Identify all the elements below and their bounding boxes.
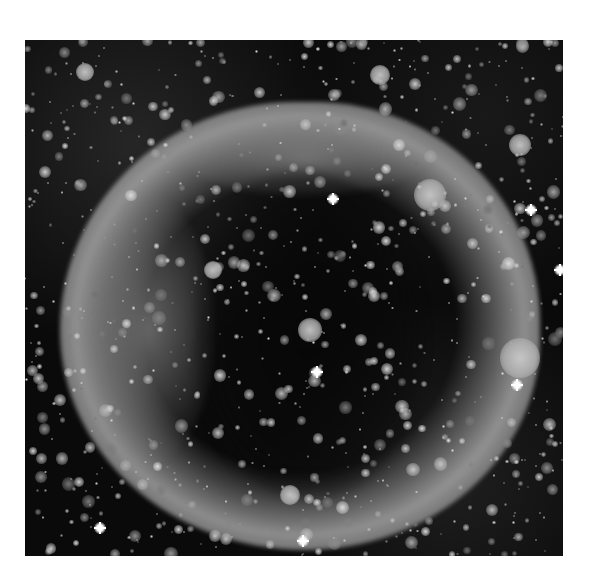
star	[194, 282, 196, 284]
star	[303, 393, 305, 395]
star	[266, 540, 274, 548]
star	[526, 179, 530, 183]
star	[331, 144, 333, 146]
star	[293, 282, 296, 285]
star	[307, 455, 310, 458]
star	[485, 144, 487, 146]
star	[346, 492, 348, 494]
star	[39, 166, 51, 178]
star	[267, 418, 275, 426]
star	[501, 551, 508, 556]
star	[150, 454, 152, 456]
star	[421, 381, 427, 387]
star	[25, 378, 28, 381]
star	[395, 535, 398, 538]
star	[386, 429, 395, 438]
star	[170, 236, 172, 238]
star	[66, 109, 68, 111]
star	[228, 244, 234, 250]
star	[253, 249, 255, 251]
star	[308, 386, 310, 388]
star	[299, 406, 301, 408]
star	[120, 130, 122, 132]
star	[297, 416, 306, 425]
star	[253, 499, 258, 504]
star	[462, 84, 467, 89]
star	[214, 369, 227, 382]
star	[468, 64, 472, 68]
bright-star-icon	[554, 264, 563, 276]
star	[263, 465, 265, 467]
star	[132, 102, 136, 106]
star	[414, 68, 417, 71]
star	[171, 531, 173, 533]
star-field	[25, 40, 563, 556]
star	[530, 300, 533, 303]
star	[85, 442, 96, 453]
star	[95, 65, 97, 67]
star	[361, 469, 369, 477]
star	[203, 488, 205, 490]
star	[280, 468, 286, 474]
star	[312, 209, 314, 211]
star	[316, 504, 323, 511]
star	[60, 112, 62, 114]
star	[255, 448, 257, 450]
star	[263, 317, 265, 319]
star	[81, 317, 83, 319]
star	[237, 380, 241, 384]
star	[191, 291, 193, 293]
star	[216, 284, 223, 291]
star	[85, 382, 87, 384]
star	[289, 163, 298, 172]
star	[179, 398, 181, 400]
star	[370, 357, 378, 365]
star	[535, 424, 537, 426]
star	[453, 97, 466, 110]
star	[392, 179, 394, 181]
star	[262, 281, 273, 292]
star	[370, 228, 373, 231]
star	[94, 417, 97, 420]
bright-star-icon	[327, 193, 339, 205]
star	[104, 443, 118, 457]
star	[119, 479, 125, 485]
star	[415, 310, 417, 312]
star	[389, 281, 393, 285]
star	[561, 459, 563, 461]
star	[517, 157, 526, 166]
star	[305, 310, 308, 313]
star	[314, 176, 326, 188]
star	[501, 233, 504, 236]
star	[118, 161, 122, 165]
star	[530, 113, 534, 117]
star	[165, 85, 169, 89]
star	[431, 221, 436, 226]
star	[213, 200, 215, 202]
star	[400, 95, 404, 99]
star	[500, 263, 507, 270]
star	[188, 461, 190, 463]
star	[179, 185, 184, 190]
star	[354, 495, 357, 498]
star	[340, 119, 348, 127]
star	[463, 524, 469, 530]
star	[403, 421, 412, 430]
star	[423, 352, 425, 354]
star	[531, 137, 533, 139]
star	[259, 251, 264, 256]
star	[363, 551, 368, 556]
star	[359, 428, 361, 430]
star	[322, 497, 334, 509]
star	[266, 531, 268, 533]
star	[158, 69, 160, 71]
star	[454, 203, 458, 207]
star	[283, 185, 296, 198]
star	[321, 341, 329, 349]
star	[82, 495, 95, 508]
star	[388, 302, 390, 304]
star	[528, 412, 530, 414]
star	[371, 168, 373, 170]
star	[64, 282, 67, 285]
star	[266, 168, 269, 171]
